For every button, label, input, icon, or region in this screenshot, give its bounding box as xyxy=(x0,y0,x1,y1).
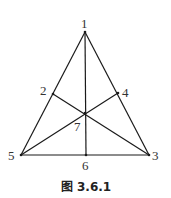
node-label-6: 6 xyxy=(82,158,89,173)
node-3 xyxy=(148,154,151,157)
node-label-1: 1 xyxy=(81,16,88,31)
edge-5-4 xyxy=(21,93,118,155)
edge-3-2 xyxy=(53,94,149,155)
figure-caption: 图 3.6.1 xyxy=(61,180,111,194)
node-2 xyxy=(52,93,55,96)
node-label-2: 2 xyxy=(40,83,47,98)
triangle-diagram: 1234567 图 3.6.1 xyxy=(0,0,171,198)
edge-1-6 xyxy=(85,32,86,155)
node-label-7: 7 xyxy=(74,119,81,134)
node-1 xyxy=(84,31,87,34)
node-label-3: 3 xyxy=(152,148,159,163)
node-7 xyxy=(84,112,87,115)
node-5 xyxy=(20,154,23,157)
node-label-4: 4 xyxy=(122,85,129,100)
node-label-5: 5 xyxy=(8,148,15,163)
node-4 xyxy=(117,92,120,95)
node-6 xyxy=(85,154,88,157)
